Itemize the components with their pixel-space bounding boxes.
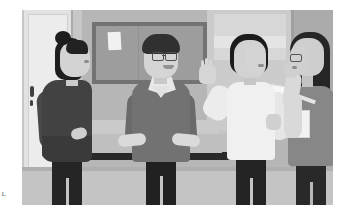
door-handle-icon: [30, 86, 34, 97]
figure-2-leg-gap: [160, 176, 163, 205]
figure-4-leg-gap: [310, 182, 313, 205]
figure-3-right-hand: [266, 114, 281, 130]
figure-3-leg-gap: [250, 178, 253, 205]
figure-4-glasses: [290, 54, 302, 62]
figure-2-glasses-right-lens: [165, 52, 177, 61]
figure-1-hair-bun: [55, 31, 71, 45]
figure-4-mouth: [292, 66, 297, 69]
figure-2-hair: [142, 34, 180, 54]
figure-3-mouth: [258, 64, 264, 67]
margin-page-number: 1.: [1, 190, 10, 198]
figure-3-raised-hand: [199, 64, 216, 84]
scene-illustration: [22, 10, 333, 205]
figure-1-leg-gap: [66, 178, 69, 205]
figure-1-mouth: [84, 60, 89, 63]
figure-3-face: [246, 46, 265, 74]
door-lock-icon: [30, 100, 33, 106]
figure-2-glasses-left-lens: [152, 52, 164, 61]
page-canvas: 1.: [0, 0, 353, 221]
figure-1-jacket-hem: [42, 136, 92, 162]
bulletin-board-paper: [108, 32, 122, 51]
figure-2-glasses-bridge: [162, 55, 165, 56]
bulletin-board-seam: [138, 26, 139, 80]
